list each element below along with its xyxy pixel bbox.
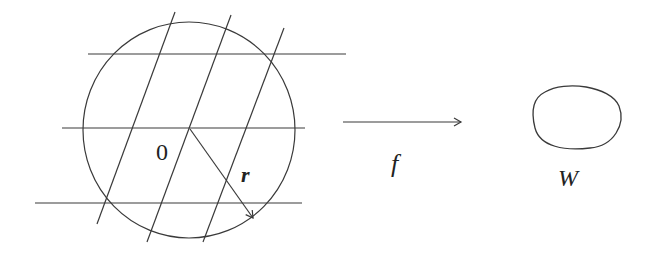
image-region-label: W [558,165,580,191]
image-region-W [533,86,621,149]
disk-group [35,12,346,242]
center-label: 0 [156,139,168,165]
diagram-canvas: 0 r f W [0,0,655,261]
radius-label: r [241,162,250,187]
slanted-line-left [97,12,175,224]
map-label: f [391,149,402,178]
slanted-line-right [203,28,284,242]
